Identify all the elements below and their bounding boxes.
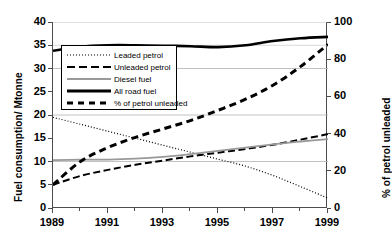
black-thick-line-icon <box>66 86 112 96</box>
tick-mark <box>299 208 300 211</box>
legend-item[interactable]: Leaded petrol <box>66 49 173 61</box>
tick-mark <box>52 208 53 213</box>
y-axis-left-tick-label: 40 <box>20 16 46 27</box>
y-axis-right-tick-label: 100 <box>334 16 364 27</box>
tick-mark <box>217 208 218 213</box>
y-axis-right-tick-label: 60 <box>334 90 364 101</box>
legend-item[interactable]: % of petrol unleaded <box>66 97 173 109</box>
x-axis-tick-label: 1999 <box>307 217 347 228</box>
legend-item-label: % of petrol unleaded <box>112 99 187 108</box>
dashed-line-icon <box>66 62 112 72</box>
legend-item-label: Unleaded petrol <box>112 63 170 72</box>
x-axis-tick-label: 1991 <box>87 217 127 228</box>
tick-mark <box>79 208 80 211</box>
y-axis-left-tick-label: 10 <box>20 156 46 167</box>
tick-mark <box>134 208 135 211</box>
tick-mark <box>327 208 328 213</box>
tick-mark <box>48 115 52 116</box>
tick-mark <box>327 96 331 97</box>
tick-mark <box>48 22 52 23</box>
tick-mark <box>327 208 331 209</box>
y-axis-right-tick-label: 80 <box>334 53 364 64</box>
x-axis-tick-label: 1989 <box>32 217 72 228</box>
tick-mark <box>327 133 331 134</box>
legend-item-label: Leaded petrol <box>112 51 163 60</box>
x-axis-tick-label: 1997 <box>252 217 292 228</box>
legend-item[interactable]: All road fuel <box>66 85 173 97</box>
y-axis-right-tick-label: 20 <box>334 165 364 176</box>
tick-mark <box>162 208 163 213</box>
bold-dash-line-icon <box>66 98 112 108</box>
y-axis-right-title: % of petrol unleaded <box>381 98 392 198</box>
legend-item[interactable]: Diesel fuel <box>66 73 173 85</box>
x-axis-tick-label: 1993 <box>142 217 182 228</box>
tick-mark <box>48 91 52 92</box>
tick-mark <box>107 208 108 213</box>
tick-mark <box>327 59 331 60</box>
series-line <box>53 117 328 198</box>
tick-mark <box>48 138 52 139</box>
tick-mark <box>48 161 52 162</box>
y-axis-right-tick-label: 40 <box>334 128 364 139</box>
legend-item-label: All road fuel <box>112 87 156 96</box>
x-axis-tick-label: 1995 <box>197 217 237 228</box>
dotted-line-icon <box>66 50 112 60</box>
tick-mark <box>189 208 190 211</box>
y-axis-left-tick-label: 0 <box>20 202 46 213</box>
y-axis-left-tick-label: 25 <box>20 86 46 97</box>
legend-item[interactable]: Unleaded petrol <box>66 61 173 73</box>
tick-mark <box>48 68 52 69</box>
tick-mark <box>48 45 52 46</box>
chart-legend: Leaded petrolUnleaded petrolDiesel fuelA… <box>61 45 177 110</box>
gray-solid-line-icon <box>66 74 112 84</box>
y-axis-left-tick-label: 30 <box>20 63 46 74</box>
tick-mark <box>244 208 245 211</box>
tick-mark <box>327 170 331 171</box>
legend-item-label: Diesel fuel <box>112 75 151 84</box>
y-axis-right-tick-label: 0 <box>334 202 364 213</box>
y-axis-left-tick-label: 35 <box>20 39 46 50</box>
tick-mark <box>327 22 331 23</box>
y-axis-left-tick-label: 5 <box>20 179 46 190</box>
tick-mark <box>48 184 52 185</box>
y-axis-left-tick-label: 15 <box>20 132 46 143</box>
y-axis-left-tick-label: 20 <box>20 109 46 120</box>
tick-mark <box>272 208 273 213</box>
